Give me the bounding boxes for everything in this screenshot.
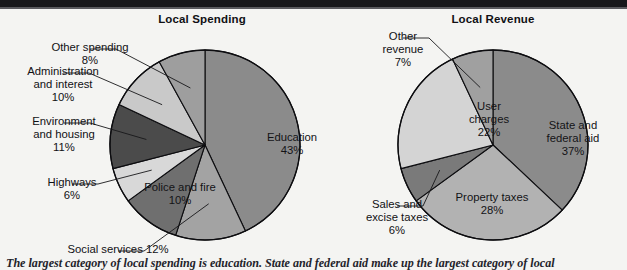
pie-label-social-services: Social services 12%: [58, 243, 178, 256]
pie-label-police-and-fire: Police and fire 10%: [120, 181, 240, 207]
pie-label-environment-and-housing: Environment and housing 11%: [4, 115, 124, 155]
figure-caption: The largest category of local spending i…: [6, 256, 621, 270]
figure-container: Local Spending Local Revenue Education 4…: [0, 0, 627, 270]
pie-label-highways: Highways 6%: [12, 176, 132, 202]
pie-label-sales-and-excise-taxes: Sales and excise taxes 6%: [337, 198, 457, 238]
pie-label-other-spending: Other spending 8%: [30, 41, 150, 67]
pie-label-education: Education 43%: [232, 131, 352, 157]
pie-label-user-charges: User charges 22%: [429, 100, 549, 140]
pie-label-administration-and-interest: Administration and interest 10%: [3, 65, 123, 105]
pie-label-other-revenue: Other revenue 7%: [343, 30, 463, 70]
